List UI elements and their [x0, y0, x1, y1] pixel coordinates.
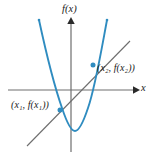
point-2-label: (x₂, f(x₂)) [97, 63, 135, 73]
secant-line [27, 41, 130, 146]
curve-left-endpoint-icon [38, 19, 41, 22]
y-axis [67, 17, 74, 152]
parabola-curve [39, 20, 107, 131]
point-marker-1 [58, 108, 63, 113]
x-axis-arrow-icon [133, 86, 140, 94]
point-marker-2 [91, 63, 96, 68]
y-axis-arrow-icon [67, 17, 74, 24]
x-axis [8, 86, 140, 94]
x-axis-label: x [141, 83, 146, 94]
curve-right-endpoint-icon [106, 19, 109, 22]
y-axis-label: f(x) [62, 4, 77, 15]
figure-canvas [0, 0, 151, 160]
parabola-secant-figure: f(x) x (x₁, f(x₁)) (x₂, f(x₂)) [0, 0, 151, 160]
point-1-label: (x₁, f(x₁)) [11, 100, 49, 110]
